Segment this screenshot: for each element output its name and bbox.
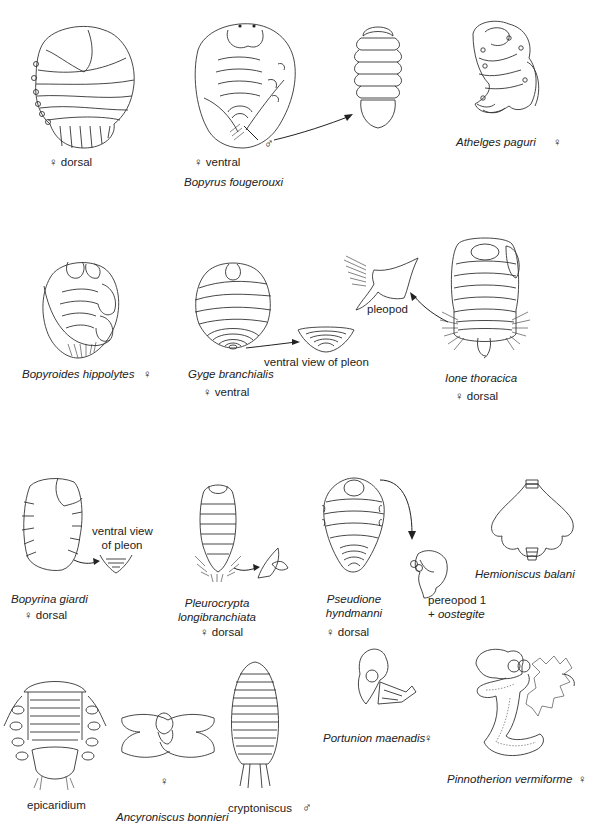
ancyroniscus-sex-symbol: ♀: [160, 774, 169, 788]
portunion-sex-symbol: ♀: [424, 731, 433, 745]
epicaridium-drawing: [2, 670, 108, 792]
bopyrina-sex-view: ♀ dorsal: [24, 608, 67, 622]
arrow-to-pereopod: [378, 474, 418, 544]
ione-species-name: Ione thoracica: [445, 371, 517, 385]
gyge-species-name: Gyge branchialis: [188, 367, 274, 381]
pseudione-species-name: Pseudione hyndmanni: [318, 592, 390, 620]
portunion-species-name: Portunion maenadis: [323, 731, 425, 745]
gyge-pleon-detail-label: ventral view of pleon: [264, 355, 369, 369]
bopyrus-male-drawing: [353, 18, 403, 130]
bopyroides-species-name: Bopyroides hippolytes: [22, 367, 135, 381]
pereopod-label-line2: + oostegite: [428, 607, 486, 621]
gyge-pleon-detail-drawing: [296, 326, 356, 354]
pereopod-label-line1: pereopod 1: [428, 593, 486, 607]
bopyrina-pleon-label-line1: ventral view: [92, 524, 152, 538]
bopyrina-pleon-detail-drawing: [98, 553, 134, 575]
bopyrina-pleon-detail-label: ventral view of pleon: [92, 524, 152, 552]
cryptoniscus-drawing: [228, 660, 282, 794]
pereopod-label-plus: +: [428, 608, 438, 620]
pinnotherion-drawing: [466, 644, 586, 760]
cryptoniscus-sex-symbol: ♂: [302, 801, 312, 815]
bopyrus-species-name: Bopyrus fougerouxi: [184, 175, 283, 189]
ancyroniscus-drawing: [118, 712, 218, 764]
pseudione-species-line2: hyndmanni: [318, 606, 390, 620]
athelges-species-name: Athelges paguri: [456, 135, 536, 149]
bopyrus-dorsal-drawing: [24, 20, 136, 150]
bopyrina-pleon-label-line2: of pleon: [92, 538, 152, 552]
athelges-sex-symbol: ♀: [553, 135, 562, 149]
ancyroniscus-species-name: Ancyroniscus bonnieri: [116, 810, 229, 823]
pleurocrypta-sex-view: ♀ dorsal: [200, 625, 243, 639]
cryptoniscus-label: cryptoniscus: [228, 801, 292, 815]
arrow-to-male: [240, 110, 360, 150]
bopyroides-sex-symbol: ♀: [143, 367, 152, 381]
oostegite-label: oostegite: [438, 608, 485, 620]
pereopod-label: pereopod 1 + oostegite: [428, 593, 486, 621]
bopyrus-ventral-caption: ♀ ventral: [194, 155, 240, 169]
pinnotherion-species-name: Pinnotherion vermiforme: [447, 772, 572, 786]
pseudione-sex-view: ♀ dorsal: [326, 625, 369, 639]
pleurocrypta-pleopod-drawing: [256, 546, 290, 580]
ione-sex-view: ♀ dorsal: [455, 389, 498, 403]
ione-drawing: [440, 234, 530, 364]
bopyroides-drawing: [38, 258, 122, 360]
bopyrus-dorsal-caption: ♀ dorsal: [49, 155, 92, 169]
pleurocrypta-species-name: Pleurocrypta longibranchiata: [172, 596, 262, 624]
pinnotherion-sex-symbol: ♀: [578, 772, 587, 786]
bopyrina-species-name: Bopyrina giardi: [11, 592, 88, 606]
gyge-sex-view: ♀ ventral: [203, 385, 249, 399]
athelges-drawing: [465, 18, 545, 118]
hemioniscus-species-name: Hemioniscus balani: [475, 567, 575, 581]
portunion-drawing: [350, 646, 418, 718]
epicaridium-label: epicaridium: [27, 798, 86, 812]
hemioniscus-drawing: [486, 476, 580, 562]
pleurocrypta-species-line2: longibranchiata: [172, 610, 262, 624]
pseudione-species-line1: Pseudione: [318, 592, 390, 606]
pleurocrypta-species-line1: Pleurocrypta: [172, 596, 262, 610]
